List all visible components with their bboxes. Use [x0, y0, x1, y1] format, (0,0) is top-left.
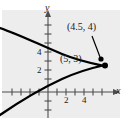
y-axis-label: y: [45, 3, 49, 13]
annotation-label-point-45-4: (4.5, 4): [67, 22, 96, 32]
x-tick-label-4: 4: [82, 96, 87, 105]
y-tick-label-2: 2: [37, 66, 42, 75]
y-tick-label-4: 4: [37, 48, 42, 57]
annotation-label-point-5-3: (5, 3): [60, 54, 82, 64]
x-axis-label: x: [116, 86, 120, 96]
parabola-figure: y x 2 4 2 4 (4.5, 4) (5, 3): [0, 0, 126, 124]
marker-point-45-4: [98, 56, 103, 61]
marker-point-5-3: [102, 63, 108, 69]
x-tick-label-2: 2: [64, 96, 69, 105]
